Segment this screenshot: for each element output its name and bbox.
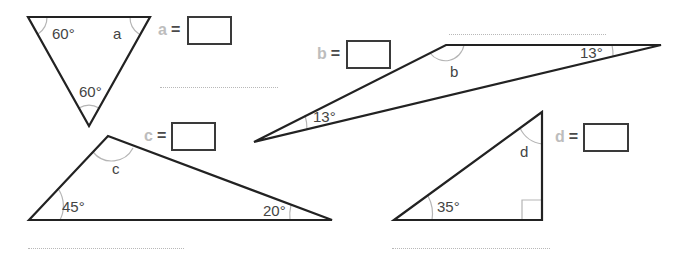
angle-label: 35° (437, 198, 460, 215)
triangle-d: d 35° (394, 112, 542, 220)
angle-arc (290, 205, 291, 220)
answer-label-d: d= (555, 128, 578, 146)
angle-arc (428, 196, 432, 220)
angle-label: 13° (580, 44, 603, 61)
right-angle-marker (522, 200, 542, 220)
answer-label-c: c= (144, 127, 166, 145)
equals-sign: = (171, 21, 180, 38)
answer-box-a[interactable] (187, 16, 232, 45)
answer-box-d[interactable] (583, 123, 629, 152)
angle-label: c (112, 160, 120, 177)
answer-box-b[interactable] (346, 40, 391, 69)
equals-sign: = (569, 128, 578, 145)
angle-arc (79, 105, 99, 108)
variable-letter: c (144, 127, 153, 144)
angle-label: b (450, 63, 458, 80)
working-line-d[interactable] (392, 248, 550, 249)
answer-label-b: b= (317, 45, 340, 63)
equals-sign: = (331, 45, 340, 62)
angle-label: 20° (263, 202, 286, 219)
working-line-a[interactable] (160, 87, 278, 88)
answer-label-a: a= (158, 21, 180, 39)
answer-box-c[interactable] (171, 122, 216, 151)
working-line-c[interactable] (28, 248, 184, 249)
variable-letter: b (317, 45, 327, 62)
variable-letter: a (158, 21, 167, 38)
angle-label: 13° (313, 108, 336, 125)
angle-arc (612, 45, 613, 57)
angle-label: 45° (62, 198, 85, 215)
angle-arc (38, 17, 47, 34)
triangle-a: 60° a 60° (28, 17, 150, 126)
angle-label: d (520, 143, 528, 160)
angle-arc (430, 45, 464, 61)
angle-arc (93, 148, 133, 161)
angle-worksheet: 60° a 60° b 13° 13° c 45° 20° (0, 0, 679, 256)
triangle-outline (28, 17, 150, 126)
triangle-outline (394, 112, 542, 220)
angle-label: 60° (79, 83, 102, 100)
equals-sign: = (157, 127, 166, 144)
angle-label: a (113, 25, 122, 42)
variable-letter: d (555, 128, 565, 145)
working-line-b[interactable] (449, 34, 606, 35)
angle-arc (130, 17, 139, 34)
angle-arc (520, 128, 542, 144)
angle-label: 60° (52, 25, 75, 42)
